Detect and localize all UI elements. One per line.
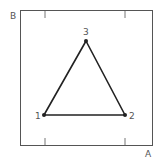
vertex-3-label: 3 [83, 27, 89, 37]
triangle-edges [44, 41, 125, 115]
vertex-1-label: 1 [35, 111, 41, 121]
triangle-diagram: B A 1 2 3 [0, 0, 160, 159]
x-axis-label: A [145, 149, 152, 159]
vertex-1 [42, 113, 46, 117]
vertex-2 [123, 113, 127, 117]
y-axis-label: B [10, 11, 16, 21]
vertex-3 [84, 39, 88, 43]
vertex-2-label: 2 [129, 111, 135, 121]
